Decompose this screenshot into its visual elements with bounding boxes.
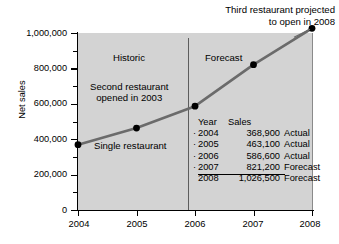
table-row: ·2004368,900Actual <box>193 128 320 139</box>
annotation-third-restaurant-line1: Third restaurant projected <box>196 4 335 16</box>
annotation-single-restaurant: Single restaurant <box>94 140 167 152</box>
table-cell-year: 2005 <box>198 139 226 150</box>
table-row: ·2005463,100Actual <box>193 139 320 150</box>
table-row: ·2007821,200Forecast <box>193 162 320 173</box>
table-cell-status: Actual <box>284 139 310 150</box>
table-cell-sales: 1,026,500 <box>226 173 284 184</box>
annotation-second-restaurant: Second restaurant opened in 2003 <box>90 81 168 104</box>
table-body: ·2004368,900Actual·2005463,100Actual·200… <box>193 128 320 184</box>
table-row: ·2006586,600Actual <box>193 151 320 162</box>
table-header-sales: Sales <box>226 117 286 128</box>
table-header-row: Year Sales <box>193 117 320 128</box>
table-row: 20081,026,500Forecast <box>193 173 320 184</box>
table-cell-sales: 463,100 <box>226 139 284 150</box>
table-cell-year: 2008 <box>198 173 226 184</box>
data-point-2005 <box>133 125 140 132</box>
annotation-second-restaurant-line2: opened in 2003 <box>90 92 168 103</box>
annotation-second-restaurant-line1: Second restaurant <box>90 81 168 92</box>
data-point-2006 <box>192 103 199 110</box>
table-cell-status: Actual <box>284 151 310 162</box>
table-cell-year: 2006 <box>198 151 226 162</box>
table-cell-status: Forecast <box>284 173 320 184</box>
annotation-leader-line <box>294 29 310 37</box>
table-cell-status: Actual <box>284 128 310 139</box>
table-cell-sales: 586,600 <box>226 151 284 162</box>
data-table: Year Sales ·2004368,900Actual·2005463,10… <box>193 117 320 184</box>
annotation-third-restaurant-line2: to open in 2008 <box>196 16 335 28</box>
data-point-2007 <box>250 61 257 68</box>
data-point-2004 <box>75 141 82 148</box>
net-sales-chart: Net sales 1,000,000 800,000 600,000 400,… <box>0 0 339 244</box>
annotation-forecast: Forecast <box>205 52 242 64</box>
table-actual-forecast-rule <box>198 174 285 175</box>
table-cell-year: 2007 <box>198 162 226 173</box>
table-cell-year: 2004 <box>198 128 226 139</box>
annotation-third-restaurant: Third restaurant projected to open in 20… <box>196 4 335 27</box>
table-header-year: Year <box>198 117 226 128</box>
table-cell-status: Forecast <box>284 162 320 173</box>
table-cell-sales: 368,900 <box>226 128 284 139</box>
table-cell-sales: 821,200 <box>226 162 284 173</box>
annotation-historic: Historic <box>113 52 145 64</box>
